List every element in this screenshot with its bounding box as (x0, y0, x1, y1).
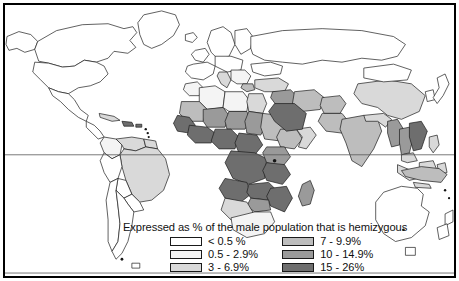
island-dot-lake-victoria (273, 159, 277, 163)
legend-columns: < 0.5 % 0.5 - 2.9% 3 - 6.9% 7 - 9.9% (123, 236, 398, 273)
country-new-zealand-north[interactable] (445, 210, 453, 226)
legend-swatch-15-26 (282, 263, 314, 272)
country-madagascar[interactable] (298, 180, 314, 206)
country-west-africa-coast[interactable] (187, 125, 215, 143)
country-tanzania[interactable] (263, 163, 291, 185)
country-finland-baltic[interactable] (235, 29, 253, 55)
country-japan[interactable] (433, 74, 449, 104)
island-dot-lesser-antilles-2 (147, 132, 149, 134)
legend-swatch-lt-0-5 (170, 237, 202, 246)
legend-item-3-6-9[interactable]: 3 - 6.9% (170, 262, 258, 273)
legend-swatch-0-5-2-9 (170, 250, 202, 259)
legend-item-7-9-9[interactable]: 7 - 9.9% (282, 236, 373, 247)
country-tasmania[interactable] (405, 247, 415, 255)
island-dot-lesser-antilles-3 (148, 136, 150, 138)
country-italy[interactable] (217, 72, 231, 88)
legend-label-7-9-9: 7 - 9.9% (320, 236, 361, 247)
country-cuba[interactable] (99, 113, 120, 121)
country-puerto-rico[interactable] (136, 124, 142, 127)
country-malaysia[interactable] (401, 153, 417, 163)
country-nigeria[interactable] (211, 129, 239, 149)
island-dot-pacific-1 (444, 189, 446, 191)
country-afghanistan[interactable] (320, 96, 346, 114)
country-libya[interactable] (223, 92, 249, 112)
map-figure-frame: Expressed as % of the male population th… (3, 3, 456, 278)
country-angola[interactable] (219, 178, 251, 202)
country-british-isles[interactable] (191, 48, 209, 62)
country-iceland[interactable] (185, 33, 197, 43)
legend-title: Expressed as % of the male population th… (123, 221, 398, 233)
legend-item-10-14-9[interactable]: 10 - 14.9% (282, 249, 373, 260)
legend-label-3-6-9: 3 - 6.9% (208, 262, 249, 273)
country-hispaniola[interactable] (122, 121, 134, 126)
legend-column-left: < 0.5 % 0.5 - 2.9% 3 - 6.9% (170, 236, 258, 273)
country-korea[interactable] (425, 90, 435, 102)
country-egypt[interactable] (247, 94, 267, 114)
country-mongolia[interactable] (364, 64, 412, 82)
country-indochina[interactable] (409, 121, 427, 151)
country-india[interactable] (340, 115, 382, 166)
island-dot-lesser-antilles-1 (145, 128, 147, 130)
legend-label-lt-0-5: < 0.5 % (208, 236, 246, 247)
legend-label-15-26: 15 - 26% (320, 262, 364, 273)
country-mali[interactable] (203, 107, 229, 127)
legend-swatch-7-9-9 (282, 237, 314, 246)
legend-swatch-3-6-9 (170, 263, 202, 272)
country-turkey[interactable] (255, 78, 289, 92)
country-greenland[interactable] (138, 11, 180, 48)
country-greece[interactable] (241, 84, 255, 92)
country-central-america[interactable] (86, 121, 104, 139)
country-philippines[interactable] (429, 135, 439, 153)
legend-column-right: 7 - 9.9% 10 - 14.9% 15 - 26% (282, 236, 373, 273)
screenshot-root: Expressed as % of the male population th… (0, 0, 459, 281)
country-france-iberia[interactable] (185, 62, 215, 80)
country-russia[interactable] (251, 29, 406, 64)
legend-item-0-5-2-9[interactable]: 0.5 - 2.9% (170, 249, 258, 260)
country-alaska[interactable] (6, 32, 38, 53)
country-new-zealand-south[interactable] (437, 224, 449, 240)
legend-item-lt-0-5[interactable]: < 0.5 % (170, 236, 258, 247)
legend-item-15-26[interactable]: 15 - 26% (282, 262, 373, 273)
country-balkans[interactable] (231, 70, 251, 84)
map-legend: Expressed as % of the male population th… (123, 221, 398, 273)
country-scandinavia[interactable] (207, 27, 235, 61)
legend-label-0-5-2-9: 0.5 - 2.9% (208, 249, 258, 260)
legend-label-10-14-9: 10 - 14.9% (320, 249, 373, 260)
country-java[interactable] (413, 182, 431, 188)
legend-swatch-10-14-9 (282, 250, 314, 259)
region-north-america (6, 11, 197, 139)
country-ukraine-caucasus[interactable] (251, 62, 283, 76)
country-germany-poland[interactable] (215, 56, 243, 72)
island-dot-pacific-2 (448, 197, 450, 199)
country-china[interactable] (354, 80, 425, 119)
